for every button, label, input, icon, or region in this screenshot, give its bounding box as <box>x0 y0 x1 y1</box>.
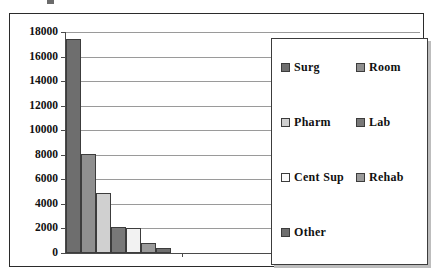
y-axis-tick: 18000 <box>10 26 58 38</box>
y-axis-tick: 16000 <box>10 51 58 63</box>
bar-rehab[interactable] <box>141 243 156 253</box>
legend-item-label: Pharm <box>294 116 331 128</box>
legend-swatch-icon <box>356 63 365 72</box>
legend-swatch-icon <box>281 63 290 72</box>
y-axis-tick: 4000 <box>10 198 58 210</box>
y-axis-tick-label: 14000 <box>29 75 58 87</box>
y-axis-tick-label: 16000 <box>29 51 58 63</box>
legend-swatch-icon <box>281 118 290 127</box>
y-axis-tick: 12000 <box>10 100 58 112</box>
x-axis-tick-mark <box>182 253 183 257</box>
legend-swatch-icon <box>356 118 365 127</box>
legend-swatch-icon <box>281 228 290 237</box>
legend-item-label: Room <box>369 61 401 73</box>
legend-item-lab[interactable]: Lab <box>356 116 391 128</box>
y-axis-tick-label: 12000 <box>29 100 58 112</box>
legend-grid: SurgRoomPharmLabCent SupRehabOther <box>272 39 427 264</box>
y-axis-tick-label: 18000 <box>29 26 58 38</box>
legend-item-label: Other <box>294 226 326 238</box>
bar-room[interactable] <box>81 154 96 253</box>
chart-legend[interactable]: SurgRoomPharmLabCent SupRehabOther <box>271 38 428 265</box>
legend-item-surg[interactable]: Surg <box>281 61 320 73</box>
y-axis-tick-label: 8000 <box>35 149 58 161</box>
y-axis-tick-label: 0 <box>52 247 58 259</box>
bar-other[interactable] <box>156 248 171 253</box>
legend-item-label: Surg <box>294 61 320 73</box>
y-axis-tick: 10000 <box>10 124 58 136</box>
y-axis-tick-label: 2000 <box>35 222 58 234</box>
legend-item-pharm[interactable]: Pharm <box>281 116 331 128</box>
y-axis-tick-label: 10000 <box>29 124 58 136</box>
legend-item-label: Lab <box>369 116 391 128</box>
legend-swatch-icon <box>356 173 365 182</box>
y-axis-tick-label: 6000 <box>35 173 58 185</box>
chart-screenshot: 1800016000140001200010000800060004000200… <box>0 0 434 276</box>
legend-item-other[interactable]: Other <box>281 226 326 238</box>
y-axis-tick-label: 4000 <box>35 198 58 210</box>
y-axis-tick: 2000 <box>10 222 58 234</box>
bar-lab[interactable] <box>111 227 126 253</box>
y-axis-tick: 6000 <box>10 173 58 185</box>
legend-item-cent-sup[interactable]: Cent Sup <box>281 171 344 183</box>
legend-item-label: Cent Sup <box>294 171 344 183</box>
legend-item-room[interactable]: Room <box>356 61 401 73</box>
y-axis-tick: 14000 <box>10 75 58 87</box>
legend-item-label: Rehab <box>369 171 404 183</box>
y-axis-tick: 0 <box>10 247 58 259</box>
legend-swatch-icon <box>281 173 290 182</box>
bar-surg[interactable] <box>66 39 81 253</box>
bar-cent-sup[interactable] <box>126 228 141 253</box>
bar-pharm[interactable] <box>96 193 111 253</box>
y-axis-tick: 8000 <box>10 149 58 161</box>
top-stray-mark <box>47 0 54 4</box>
chart-frame: 1800016000140001200010000800060004000200… <box>9 13 424 267</box>
legend-item-rehab[interactable]: Rehab <box>356 171 404 183</box>
